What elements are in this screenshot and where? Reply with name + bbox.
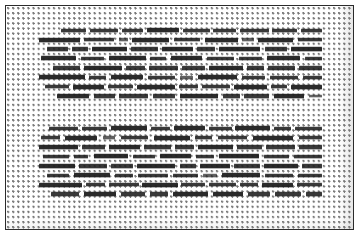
text-word-mark [182,66,205,69]
text-word-mark [237,145,262,148]
text-word-mark [111,75,143,79]
text-word-mark [121,136,149,139]
text-word-mark [39,38,80,42]
text-word-mark [294,155,322,158]
text-word-mark [179,85,199,88]
text-word-mark [234,164,260,167]
text-word-mark [142,183,177,187]
text-word-mark [133,155,155,158]
text-word-mark [291,47,322,51]
text-line [39,26,322,35]
text-word-mark [299,66,322,69]
text-word-mark [94,94,115,97]
text-word-mark [47,47,68,50]
text-word-mark [109,183,138,186]
text-word-mark [209,127,232,130]
text-word-mark [234,85,267,89]
text-line [39,54,322,63]
text-word-mark [195,136,212,139]
text-word-mark [239,57,262,60]
text-word-mark [298,38,322,41]
text-word-mark [84,66,122,70]
text-word-mark [198,75,238,79]
text-word-mark [270,76,298,79]
text-word-mark [303,76,322,79]
text-word-mark [82,127,107,130]
text-word-mark [180,164,196,167]
text-word-mark [200,164,230,168]
text-word-mark [175,145,194,148]
text-word-mark [180,94,218,98]
text-line [39,152,322,161]
text-word-mark [209,66,244,70]
text-word-mark [272,29,297,32]
text-word-mark [247,66,264,69]
text-word-mark [103,136,116,139]
text-word-mark [43,155,69,158]
text-word-mark [298,174,322,177]
text-line [39,162,322,171]
text-line [39,124,322,133]
text-line [39,143,322,152]
text-word-mark [65,136,97,140]
text-word-mark [94,154,128,158]
text-word-mark [137,164,175,168]
text-word-mark [265,174,293,177]
text-word-mark [149,66,178,69]
text-word-mark [235,126,270,130]
text-word-mark [258,38,293,42]
text-line [39,92,322,101]
text-word-mark [53,66,80,69]
text-word-mark [207,57,234,60]
paragraph-2 [39,124,322,199]
text-word-mark [122,29,143,32]
text-word-mark [268,66,295,69]
text-word-mark [39,75,85,79]
text-word-mark [291,85,322,89]
text-word-mark [39,145,78,149]
scanned-document-page [0,0,359,236]
text-word-mark [74,155,88,158]
text-word-mark [240,183,258,186]
text-word-mark [61,29,86,32]
text-word-mark [297,183,322,186]
text-line [39,82,322,91]
text-line [39,73,322,82]
text-word-mark [171,56,202,60]
text-word-mark [92,47,127,51]
text-word-mark [82,145,105,148]
text-word-mark [109,145,140,149]
text-word-mark [86,183,106,186]
text-word-mark [41,56,76,60]
text-word-mark [222,173,260,177]
text-word-mark [309,95,322,98]
text-word-mark [57,94,89,98]
text-word-mark [111,164,133,167]
text-word-mark [121,192,145,195]
text-word-mark [174,126,205,130]
text-line [39,171,322,180]
text-word-mark [295,127,322,130]
text-word-mark [147,28,179,32]
text-word-mark [84,38,114,41]
text-word-mark [264,155,288,158]
text-word-mark [275,192,301,195]
text-word-mark [111,126,148,130]
document-text-layer [6,6,353,229]
text-word-mark [154,136,190,140]
text-line [39,45,322,54]
text-word-mark [160,154,190,158]
text-word-mark [119,38,128,41]
text-word-mark [162,47,193,51]
text-word-mark [302,164,322,167]
text-word-mark [150,192,168,195]
text-word-mark [84,192,116,196]
text-word-mark [213,29,236,32]
text-word-mark [174,38,200,41]
text-word-mark [150,57,166,60]
text-word-mark [89,76,106,79]
text-word-mark [151,127,170,130]
text-word-mark [265,47,288,50]
text-word-mark [138,174,168,177]
text-word-mark [108,85,134,88]
